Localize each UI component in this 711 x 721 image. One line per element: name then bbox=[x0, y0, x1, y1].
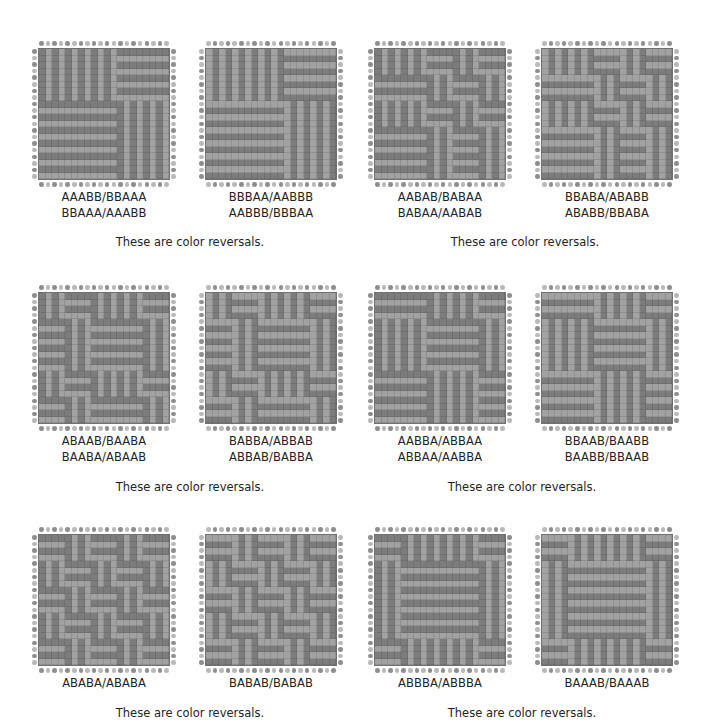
thread-dot bbox=[32, 366, 37, 371]
thread-dot bbox=[415, 182, 420, 187]
thread-dot bbox=[507, 82, 512, 87]
draft-r2-c2: BABBA/ABBABABBAB/BABBA bbox=[199, 285, 343, 465]
thread-dot bbox=[535, 168, 540, 173]
thread-dot bbox=[582, 285, 587, 290]
thread-dot bbox=[487, 426, 492, 431]
thread-color-dots bbox=[374, 426, 506, 431]
thread-dot bbox=[474, 41, 479, 46]
thread-dot bbox=[112, 426, 117, 431]
thread-dot bbox=[368, 418, 373, 423]
thread-color-dots bbox=[205, 41, 337, 46]
draft-label: AABAB/BABAABABAA/AABAB bbox=[368, 189, 512, 221]
weave-cells bbox=[205, 292, 337, 424]
thread-dot bbox=[674, 319, 679, 324]
thread-dot bbox=[199, 346, 204, 351]
thread-dot bbox=[621, 527, 626, 532]
thread-dot bbox=[507, 660, 512, 665]
thread-dot bbox=[125, 41, 130, 46]
thread-dot bbox=[199, 548, 204, 553]
thread-dot bbox=[674, 168, 679, 173]
thread-dot bbox=[39, 41, 44, 46]
thread-dot bbox=[92, 41, 97, 46]
thread-dot bbox=[338, 333, 343, 338]
thread-dot bbox=[338, 75, 343, 80]
thread-dot bbox=[382, 41, 387, 46]
thread-dot bbox=[494, 426, 499, 431]
thread-dot bbox=[428, 527, 433, 532]
thread-dot bbox=[667, 426, 672, 431]
thread-dot bbox=[582, 182, 587, 187]
thread-color-dots bbox=[38, 182, 170, 187]
thread-dot bbox=[661, 285, 666, 290]
thread-dot bbox=[507, 372, 512, 377]
weave-cells bbox=[541, 48, 673, 180]
thread-dot bbox=[555, 182, 560, 187]
weave-cells bbox=[374, 48, 506, 180]
thread-dot bbox=[138, 41, 143, 46]
thread-dot bbox=[674, 392, 679, 397]
thread-dot bbox=[507, 333, 512, 338]
thread-color-dots bbox=[171, 292, 176, 424]
thread-dot bbox=[368, 608, 373, 613]
thread-dot bbox=[415, 668, 420, 673]
thread-dot bbox=[252, 285, 257, 290]
thread-dot bbox=[171, 660, 176, 665]
thread-dot bbox=[507, 634, 512, 639]
thread-dot bbox=[368, 621, 373, 626]
caption-r3-left: These are color reversals. bbox=[40, 706, 340, 720]
thread-dot bbox=[331, 41, 336, 46]
thread-dot bbox=[507, 601, 512, 606]
thread-dot bbox=[467, 285, 472, 290]
thread-dot bbox=[415, 285, 420, 290]
thread-dot bbox=[507, 548, 512, 553]
thread-dot bbox=[575, 527, 580, 532]
thread-color-dots bbox=[38, 41, 170, 46]
thread-dot bbox=[368, 95, 373, 100]
thread-color-dots bbox=[374, 668, 506, 673]
caption-r2-right: These are color reversals. bbox=[372, 480, 672, 494]
thread-dot bbox=[654, 41, 659, 46]
thread-dot bbox=[535, 108, 540, 113]
thread-color-dots bbox=[535, 48, 540, 180]
thread-dot bbox=[535, 654, 540, 659]
thread-dot bbox=[507, 412, 512, 417]
thread-dot bbox=[32, 660, 37, 665]
thread-dot bbox=[507, 621, 512, 626]
thread-dot bbox=[171, 359, 176, 364]
thread-dot bbox=[654, 285, 659, 290]
thread-dot bbox=[542, 527, 547, 532]
thread-dot bbox=[408, 182, 413, 187]
thread-dot bbox=[305, 527, 310, 532]
thread-dot bbox=[338, 372, 343, 377]
thread-dot bbox=[467, 527, 472, 532]
thread-dot bbox=[382, 182, 387, 187]
thread-dot bbox=[507, 561, 512, 566]
draft-label: BAAAB/BAAAB bbox=[535, 675, 679, 691]
thread-dot bbox=[615, 41, 620, 46]
thread-dot bbox=[118, 285, 123, 290]
thread-dot bbox=[171, 49, 176, 54]
thread-dot bbox=[401, 41, 406, 46]
thread-dot bbox=[674, 535, 679, 540]
thread-dot bbox=[441, 182, 446, 187]
thread-dot bbox=[621, 426, 626, 431]
thread-dot bbox=[98, 285, 103, 290]
thread-dot bbox=[507, 161, 512, 166]
thread-dot bbox=[575, 285, 580, 290]
thread-dot bbox=[118, 41, 123, 46]
thread-dot bbox=[199, 601, 204, 606]
thread-dot bbox=[382, 527, 387, 532]
thread-dot bbox=[474, 426, 479, 431]
thread-dot bbox=[368, 346, 373, 351]
thread-dot bbox=[667, 668, 672, 673]
thread-dot bbox=[555, 668, 560, 673]
thread-dot bbox=[338, 306, 343, 311]
thread-dot bbox=[72, 182, 77, 187]
weave-grid bbox=[368, 527, 512, 673]
thread-color-dots bbox=[38, 285, 170, 290]
thread-dot bbox=[65, 527, 70, 532]
thread-dot bbox=[79, 182, 84, 187]
thread-dot bbox=[305, 668, 310, 673]
thread-dot bbox=[171, 399, 176, 404]
thread-dot bbox=[118, 668, 123, 673]
